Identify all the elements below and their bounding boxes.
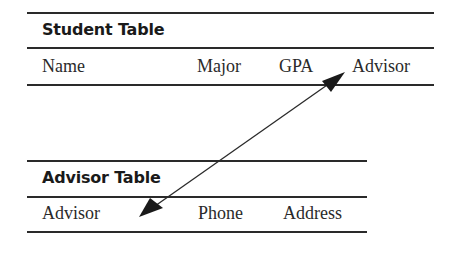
relationship-arrow-icon: [0, 0, 457, 253]
